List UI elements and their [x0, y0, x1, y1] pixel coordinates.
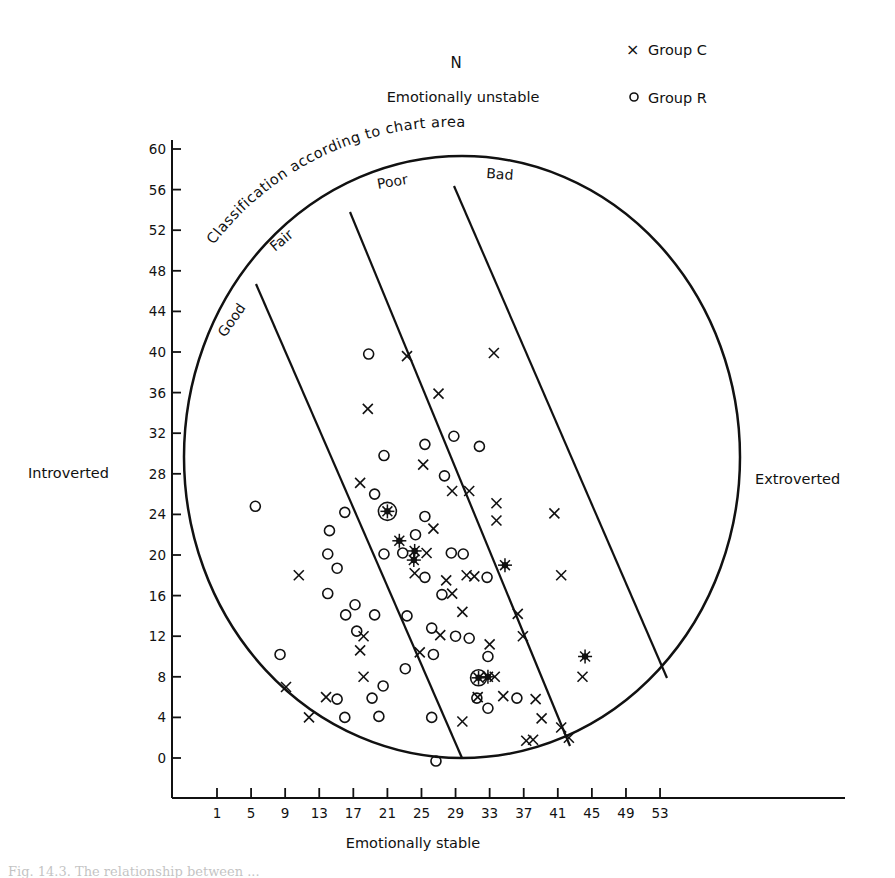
point-multiple-asterisk-icon	[392, 534, 406, 548]
point-group-r-circle-icon	[370, 610, 380, 620]
y-tick-label: 0	[157, 750, 166, 766]
point-group-c-x-icon	[537, 713, 547, 723]
point-group-r-circle-icon	[411, 530, 421, 540]
outer-circle	[184, 156, 740, 758]
n-label: N	[450, 54, 461, 72]
point-group-r-circle-icon	[352, 626, 362, 636]
point-group-c-x-icon	[549, 508, 559, 518]
point-group-c-x-icon	[556, 570, 566, 580]
point-group-c-x-icon	[469, 571, 479, 581]
legend-marker-circle-icon	[630, 93, 638, 101]
point-group-r-circle-icon	[439, 471, 449, 481]
point-group-c-x-icon	[434, 389, 444, 399]
point-group-r-circle-icon	[374, 711, 384, 721]
point-group-c-x-icon	[531, 694, 541, 704]
x-ticks: 1591317212529333741454953	[213, 788, 669, 821]
point-group-r-circle-icon	[398, 548, 408, 558]
point-group-r-circle-icon	[332, 563, 342, 573]
x-tick-label: 13	[311, 805, 328, 821]
point-group-r-circle-icon	[482, 572, 492, 582]
point-group-c-x-icon	[359, 631, 369, 641]
divider-poor-bad	[454, 186, 667, 678]
x-tick-label: 29	[447, 805, 464, 821]
figure-caption: Fig. 14.3. The relationship between ...	[8, 864, 260, 878]
point-group-r-circle-icon	[458, 549, 468, 559]
point-multiple-asterisk-icon	[578, 650, 592, 664]
point-group-r-circle-icon	[483, 703, 493, 713]
point-group-r-circle-icon	[378, 681, 388, 691]
point-group-r-circle-icon	[275, 649, 285, 659]
point-group-r-circle-icon	[340, 507, 350, 517]
point-group-c-x-icon	[491, 515, 501, 525]
point-group-c-x-icon	[321, 692, 331, 702]
point-group-c-x-icon	[485, 639, 495, 649]
x-tick-label: 41	[549, 805, 566, 821]
y-ticks: 04812162024283236404448525660	[149, 141, 181, 766]
y-tick-label: 60	[149, 141, 166, 157]
y-tick-label: 32	[149, 425, 166, 441]
point-group-r-circle-icon	[420, 572, 430, 582]
y-tick-label: 52	[149, 222, 166, 238]
point-group-c-x-icon	[528, 735, 538, 745]
point-group-r-circle-icon	[512, 693, 522, 703]
x-tick-label: 25	[413, 805, 430, 821]
y-tick-label: 28	[149, 466, 166, 482]
point-group-r-circle-icon	[324, 526, 334, 536]
y-tick-label: 24	[149, 506, 166, 522]
y-tick-label: 56	[149, 182, 166, 198]
point-group-c-x-icon	[578, 672, 588, 682]
legend-marker-x-icon: ×	[626, 40, 639, 59]
point-group-c-x-icon	[304, 712, 314, 722]
point-group-c-x-icon	[428, 524, 438, 534]
point-group-r-circle-icon	[370, 489, 380, 499]
x-tick-label: 33	[481, 805, 498, 821]
legend-entry-group-r: Group R	[630, 90, 707, 106]
point-group-r-circle-icon	[474, 441, 484, 451]
y-tick-label: 4	[157, 709, 166, 725]
point-group-c-x-icon	[418, 460, 428, 470]
zone-dividers	[256, 186, 667, 758]
point-group-c-x-icon	[410, 568, 420, 578]
zone-poor-label: Poor	[376, 171, 409, 192]
point-multiple-asterisk-icon	[380, 504, 394, 518]
point-group-c-x-icon	[294, 570, 304, 580]
point-group-c-x-icon	[355, 478, 365, 488]
y-tick-label: 20	[149, 547, 166, 563]
y-tick-label: 12	[149, 628, 166, 644]
x-tick-label: 53	[651, 805, 668, 821]
point-group-c-x-icon	[435, 630, 445, 640]
point-group-c-x-icon	[422, 548, 432, 558]
x-tick-label: 21	[379, 805, 396, 821]
point-group-r-circle-icon	[341, 610, 351, 620]
legend-label-group-r: Group R	[648, 90, 707, 106]
left-label: Introverted	[28, 465, 109, 481]
point-group-r-circle-icon	[446, 548, 456, 558]
x-axis-label: Emotionally stable	[346, 835, 480, 851]
point-group-r-circle-icon	[437, 590, 447, 600]
point-multiple-asterisk-icon	[498, 558, 512, 572]
point-group-r-circle-icon	[379, 549, 389, 559]
point-group-r-circle-icon	[464, 633, 474, 643]
scatter-chart: 04812162024283236404448525660 1591317212…	[0, 0, 895, 878]
x-tick-label: 1	[213, 805, 222, 821]
point-group-c-x-icon	[489, 348, 499, 358]
top-axis-label: Emotionally unstable	[387, 89, 540, 105]
point-group-r-circle-icon	[427, 623, 437, 633]
x-tick-label: 17	[345, 805, 362, 821]
point-group-r-circle-icon	[420, 511, 430, 521]
x-tick-label: 37	[515, 805, 532, 821]
point-group-c-x-icon	[498, 691, 508, 701]
x-tick-label: 49	[617, 805, 634, 821]
x-tick-label: 5	[247, 805, 256, 821]
point-group-r-circle-icon	[332, 694, 342, 704]
point-group-c-x-icon	[363, 404, 373, 414]
y-tick-label: 48	[149, 263, 166, 279]
point-group-c-x-icon	[457, 607, 467, 617]
right-label: Extroverted	[755, 471, 840, 487]
point-group-c-x-icon	[447, 486, 457, 496]
x-tick-label: 45	[583, 805, 600, 821]
y-tick-label: 8	[157, 669, 166, 685]
point-group-c-x-icon	[447, 589, 457, 599]
x-tick-label: 9	[281, 805, 290, 821]
legend-entry-group-c: × Group C	[626, 40, 707, 59]
